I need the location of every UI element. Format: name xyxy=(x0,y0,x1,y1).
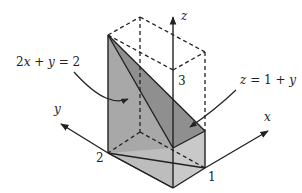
surface-leader-arrow xyxy=(190,90,236,127)
surface-equation-label: z = 1 + y xyxy=(239,73,296,87)
x-axis-label: x xyxy=(264,110,271,124)
z-tick-label: 3 xyxy=(178,74,186,88)
y-axis xyxy=(61,124,108,153)
z-axis-label: z xyxy=(180,9,188,23)
solid-region-diagram: z 3 y 2 x 1 2x + y = 2 z = 1 + y xyxy=(0,0,302,193)
x-axis xyxy=(205,131,268,168)
plane-equation-label: 2x + y = 2 xyxy=(16,55,80,69)
x-tick-label: 1 xyxy=(208,170,216,184)
y-axis-label: y xyxy=(53,102,61,116)
y-tick-label: 2 xyxy=(96,151,104,165)
